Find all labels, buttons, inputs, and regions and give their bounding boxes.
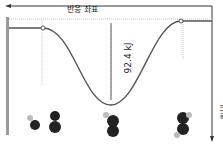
molecule-products xyxy=(27,111,61,133)
point-products xyxy=(41,26,45,30)
energy-gap-label: 92.4 kJ xyxy=(123,43,133,74)
frame-bar xyxy=(6,17,9,135)
diagram-canvas xyxy=(0,0,223,145)
y-axis-arrow-icon xyxy=(210,136,214,142)
x-axis-label: 반응 좌표 xyxy=(67,3,98,14)
molecule-transition xyxy=(103,112,119,137)
y-axis-label: 에너지 xyxy=(218,104,223,119)
molecule-reactants xyxy=(174,112,192,138)
energy-diagram: 반응 좌표 92.4 kJ 에너지 xyxy=(0,0,223,145)
x-axis-arrow-icon xyxy=(5,4,11,8)
point-reactants xyxy=(179,19,183,23)
